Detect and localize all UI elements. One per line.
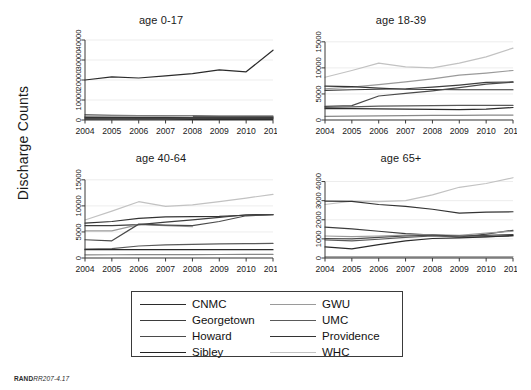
svg-text:2010: 2010 [237, 264, 256, 274]
legend-label-cnmc: CNMC [192, 297, 227, 312]
svg-text:2008: 2008 [423, 264, 442, 274]
svg-text:5000: 5000 [74, 223, 83, 240]
legend-item-providence: Providence [270, 329, 394, 344]
svg-text:2010: 2010 [477, 126, 496, 136]
legend-swatch-howard [140, 336, 186, 337]
legend-label-georgetown: Georgetown [192, 313, 255, 328]
svg-text:2011: 2011 [504, 126, 517, 136]
svg-text:2007: 2007 [396, 126, 415, 136]
svg-text:2011: 2011 [264, 126, 277, 136]
panel-title-age-18-39: age 18-39 [285, 14, 517, 26]
legend: CNMC GWU Georgetown UMC Howard Providenc… [131, 291, 403, 357]
svg-text:10000: 10000 [74, 195, 83, 216]
svg-text:2008: 2008 [183, 264, 202, 274]
svg-text:2005: 2005 [102, 126, 121, 136]
svg-text:10000: 10000 [314, 57, 323, 78]
panel-title-age-40-64: age 40-64 [45, 152, 277, 164]
legend-label-umc: UMC [322, 313, 348, 328]
svg-text:1000: 1000 [314, 230, 323, 247]
panel-title-age-65-plus: age 65+ [285, 152, 517, 164]
svg-text:2004: 2004 [315, 264, 334, 274]
panel-age-40-64: age 40-64 050001000015000200420052006200… [45, 152, 277, 280]
svg-text:2006: 2006 [129, 264, 148, 274]
svg-text:2009: 2009 [450, 126, 469, 136]
legend-swatch-cnmc [140, 304, 186, 305]
svg-text:2009: 2009 [210, 264, 229, 274]
legend-item-gwu: GWU [270, 297, 394, 312]
legend-swatch-georgetown [140, 320, 186, 321]
svg-text:2007: 2007 [156, 126, 175, 136]
svg-text:10000: 10000 [74, 89, 83, 110]
svg-text:2006: 2006 [129, 126, 148, 136]
svg-text:20000: 20000 [74, 69, 83, 90]
legend-item-georgetown: Georgetown [140, 313, 264, 328]
plot-age-18-39: 0500010000150002004200520062007200820092… [285, 28, 517, 142]
legend-swatch-gwu [270, 304, 316, 305]
panel-age-65-plus: age 65+ 01000200030004000200420052006200… [285, 152, 517, 280]
legend-swatch-umc [270, 320, 316, 321]
svg-text:40000: 40000 [74, 29, 83, 50]
plot-age-0-17: 0100002000030000400002004200520062007200… [45, 28, 277, 142]
svg-text:0: 0 [74, 256, 83, 260]
panel-age-18-39: age 18-39 050001000015000200420052006200… [285, 14, 517, 142]
y-axis-title: Discharge Counts [8, 0, 38, 285]
svg-text:2007: 2007 [156, 264, 175, 274]
panel-title-age-0-17: age 0-17 [45, 14, 277, 26]
svg-text:2008: 2008 [423, 126, 442, 136]
legend-item-sibley: Sibley [140, 345, 264, 360]
footer-brand: RAND [14, 375, 33, 382]
legend-swatch-sibley [140, 352, 186, 353]
svg-text:2010: 2010 [477, 264, 496, 274]
svg-text:0: 0 [314, 118, 323, 122]
svg-text:2011: 2011 [504, 264, 517, 274]
legend-grid: CNMC GWU Georgetown UMC Howard Providenc… [132, 292, 402, 365]
legend-item-howard: Howard [140, 329, 264, 344]
legend-swatch-whc [270, 352, 316, 353]
svg-text:2007: 2007 [396, 264, 415, 274]
svg-text:5000: 5000 [314, 85, 323, 102]
legend-label-providence: Providence [322, 329, 380, 344]
svg-text:2009: 2009 [210, 126, 229, 136]
svg-text:2005: 2005 [342, 264, 361, 274]
svg-text:0: 0 [74, 118, 83, 122]
discharge-counts-figure: Discharge Counts age 0-17 01000020000300… [0, 0, 531, 390]
svg-text:30000: 30000 [74, 49, 83, 70]
figure-source-note: RANDRR207-4.17 [14, 375, 69, 382]
plot-age-65-plus: 0100020003000400020042005200620072008200… [285, 166, 517, 280]
svg-text:2006: 2006 [369, 264, 388, 274]
plot-age-40-64: 0500010000150002004200520062007200820092… [45, 166, 277, 280]
legend-item-cnmc: CNMC [140, 297, 264, 312]
panel-age-0-17: age 0-17 0100002000030000400002004200520… [45, 14, 277, 142]
svg-text:0: 0 [314, 256, 323, 260]
footer-code: RR207-4.17 [33, 375, 69, 382]
svg-text:2004: 2004 [315, 126, 334, 136]
svg-text:2004: 2004 [75, 264, 94, 274]
legend-label-gwu: GWU [322, 297, 350, 312]
legend-item-whc: WHC [270, 345, 394, 360]
svg-text:15000: 15000 [74, 169, 83, 190]
svg-text:2006: 2006 [369, 126, 388, 136]
legend-label-whc: WHC [322, 345, 349, 360]
y-axis-title-text: Discharge Counts [15, 85, 31, 199]
svg-text:2010: 2010 [237, 126, 256, 136]
legend-item-umc: UMC [270, 313, 394, 328]
svg-text:4000: 4000 [314, 173, 323, 190]
svg-text:2008: 2008 [183, 126, 202, 136]
legend-label-sibley: Sibley [192, 345, 223, 360]
svg-text:2000: 2000 [314, 211, 323, 228]
svg-text:2005: 2005 [342, 126, 361, 136]
svg-text:2009: 2009 [450, 264, 469, 274]
svg-text:2005: 2005 [102, 264, 121, 274]
svg-text:2004: 2004 [75, 126, 94, 136]
legend-swatch-providence [270, 336, 316, 337]
legend-label-howard: Howard [192, 329, 232, 344]
svg-text:2011: 2011 [264, 264, 277, 274]
svg-text:3000: 3000 [314, 192, 323, 209]
svg-text:15000: 15000 [314, 31, 323, 52]
